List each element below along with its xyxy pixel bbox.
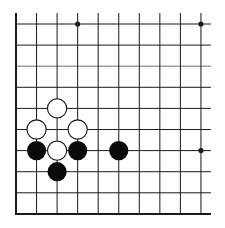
- white-stone: [27, 120, 46, 139]
- black-stone: [48, 162, 67, 181]
- grid-lines: [16, 13, 211, 215]
- black-stone: [68, 141, 87, 160]
- black-stone: [109, 141, 128, 160]
- star-point-icon: [198, 148, 203, 153]
- go-board: [0, 0, 225, 228]
- white-stone: [48, 141, 67, 160]
- star-point-icon: [198, 21, 203, 26]
- white-stone: [48, 99, 67, 118]
- black-stone: [27, 141, 46, 160]
- star-point-icon: [75, 21, 80, 26]
- white-stone: [68, 120, 87, 139]
- go-board-diagram: [0, 0, 225, 228]
